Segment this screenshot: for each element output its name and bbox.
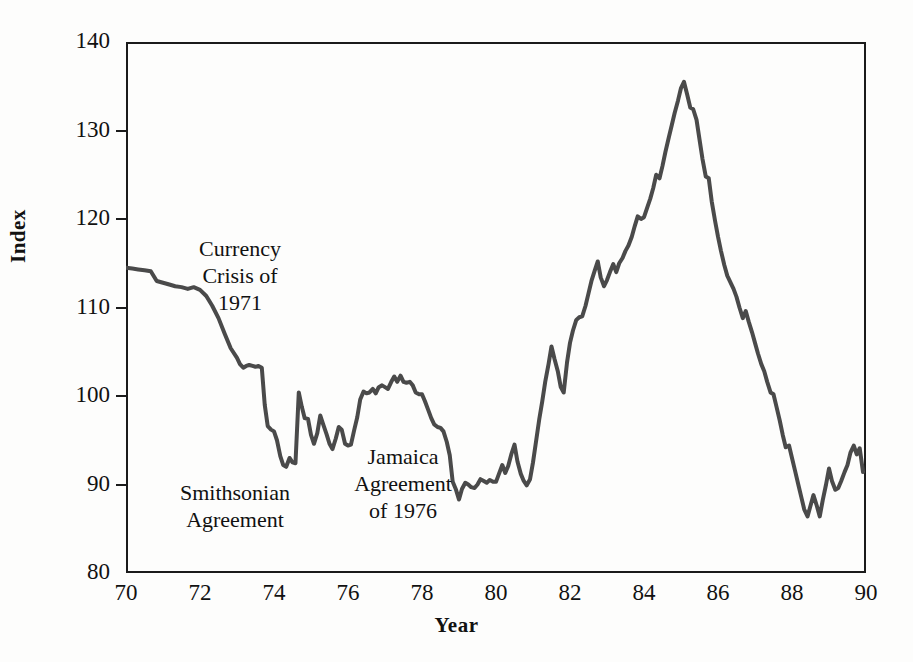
x-tick-label: 88 <box>762 581 822 605</box>
y-tick-label: 110 <box>76 295 110 319</box>
y-tick-label: 100 <box>76 383 111 407</box>
y-axis-title: Index <box>6 209 31 263</box>
x-tick-label: 86 <box>688 581 748 605</box>
x-tick-label: 70 <box>96 581 156 605</box>
annotation-smithsonian-agreement: Smithsonian Agreement <box>140 479 330 533</box>
x-tick-label: 78 <box>392 581 452 605</box>
x-tick-label: 74 <box>244 581 304 605</box>
y-tick-label: 130 <box>76 118 111 142</box>
chart-figure: Index 8090100110120130140 70727476788082… <box>0 0 913 662</box>
y-tick-label: 90 <box>87 472 110 496</box>
annotation-jamaica-agreement: Jamaica Agreement of 1976 <box>313 443 493 524</box>
x-axis-title: Year <box>0 613 913 638</box>
y-tick-label: 120 <box>76 206 111 230</box>
y-tick-label: 140 <box>76 29 111 53</box>
x-tick-label: 80 <box>466 581 526 605</box>
x-tick-label: 82 <box>540 581 600 605</box>
x-tick-label: 90 <box>836 581 896 605</box>
annotation-currency-crisis: Currency Crisis of 1971 <box>150 235 330 316</box>
x-tick-label: 72 <box>170 581 230 605</box>
x-tick-label: 76 <box>318 581 378 605</box>
x-tick-label: 84 <box>614 581 674 605</box>
